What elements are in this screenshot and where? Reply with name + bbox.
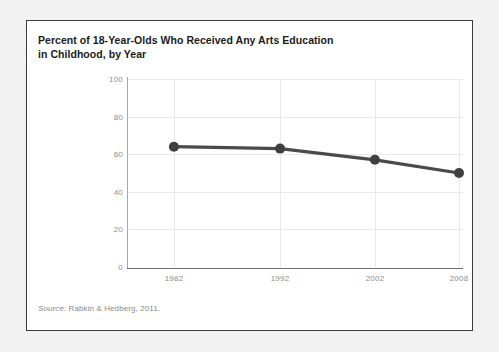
x-axis-spine <box>127 268 463 269</box>
y-tick-label-100: 100 <box>97 75 123 84</box>
y-tick-label-80: 80 <box>97 112 123 121</box>
data-point-1982 <box>169 142 179 152</box>
y-tick-label-20: 20 <box>97 225 123 234</box>
y-axis-tick-labels: 0 20 40 60 80 100 <box>93 79 123 267</box>
x-axis-tick-labels: 1982 1992 2002 2008 <box>128 274 463 288</box>
series-line-chart <box>128 79 463 267</box>
y-tick-label-0: 0 <box>97 263 123 272</box>
data-point-2002 <box>370 155 380 165</box>
source-note: Source: Rabkin & Hedberg, 2011. <box>38 304 160 313</box>
y-tick-label-40: 40 <box>97 187 123 196</box>
data-point-1992 <box>275 144 285 154</box>
plot-wrapper: 0 20 40 60 80 100 <box>27 21 474 332</box>
data-point-2008 <box>454 168 464 178</box>
y-tick-label-60: 60 <box>97 150 123 159</box>
source-text: Rabkin & Hedberg, 2011. <box>69 304 161 313</box>
figure-frame: Percent of 18-Year-Olds Who Received Any… <box>26 20 473 331</box>
x-tick-label-2008: 2008 <box>450 274 469 283</box>
source-label: Source: <box>38 304 66 313</box>
plot-area <box>128 79 463 267</box>
x-tick-label-2002: 2002 <box>366 274 385 283</box>
x-tick-label-1992: 1992 <box>271 274 290 283</box>
series-line-path <box>174 147 459 173</box>
x-tick-label-1982: 1982 <box>165 274 184 283</box>
